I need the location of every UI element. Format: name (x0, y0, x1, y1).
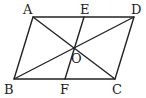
segment-ef (65, 17, 84, 79)
label-c: C (112, 82, 122, 97)
label-a: A (22, 2, 33, 17)
label-d: D (131, 2, 141, 17)
label-o: O (71, 51, 82, 66)
label-b: B (4, 82, 14, 97)
label-f: F (60, 82, 69, 97)
parallelogram-diagram: A E D O B F C (0, 0, 146, 98)
label-e: E (80, 2, 90, 17)
